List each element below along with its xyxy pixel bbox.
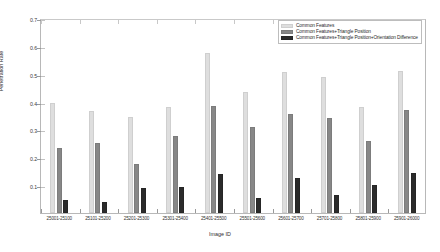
- chart-figure: 0.10.20.30.40.50.60.7 25001-2510025101-2…: [0, 0, 440, 252]
- bar-group: [243, 92, 263, 213]
- bar: [411, 173, 416, 213]
- x-tick-mark-top: [195, 20, 196, 24]
- bar-group: [205, 53, 225, 213]
- bar: [173, 136, 178, 213]
- bar-group: [398, 71, 418, 213]
- bar: [288, 114, 293, 213]
- bar: [295, 178, 300, 213]
- bar: [141, 188, 146, 213]
- bar-group: [321, 77, 341, 214]
- bar: [282, 72, 287, 213]
- bar: [359, 107, 364, 213]
- x-tick-mark-top: [157, 20, 158, 24]
- y-tick-mark-inner: [41, 159, 45, 160]
- x-tick-mark-bottom: [350, 209, 351, 213]
- bar: [372, 185, 377, 213]
- x-tick-label: 25801-25900: [355, 216, 380, 221]
- y-tick-label: 0.6: [30, 45, 37, 51]
- y-axis-title: Penetration Rate: [0, 26, 4, 116]
- y-tick-label: 0.7: [30, 17, 37, 23]
- x-tick-mark-bottom: [195, 209, 196, 213]
- bar: [366, 141, 371, 213]
- bar: [334, 195, 339, 213]
- legend-label: Common Features+Triangle Position+Orient…: [296, 35, 418, 40]
- x-tick-mark-top: [118, 20, 119, 24]
- bar: [89, 111, 94, 213]
- bar: [321, 77, 326, 214]
- y-tick-label: 0.2: [30, 156, 37, 162]
- x-tick-label: 25001-25100: [47, 216, 72, 221]
- bar: [218, 174, 223, 213]
- bar-group: [359, 107, 379, 213]
- y-tick-mark-inner: [41, 187, 45, 188]
- legend-label: Common Features: [296, 23, 334, 28]
- bar: [134, 164, 139, 213]
- x-tick-mark-bottom: [41, 209, 42, 213]
- x-tick-mark-top: [80, 20, 81, 24]
- y-tick-mark-inner: [41, 131, 45, 132]
- bar: [102, 202, 107, 213]
- legend-color-swatch: [281, 36, 293, 40]
- x-tick-mark-top: [234, 20, 235, 24]
- bar: [50, 103, 55, 213]
- bar: [327, 118, 332, 213]
- y-tick-mark-inner: [41, 48, 45, 49]
- bar: [179, 187, 184, 213]
- x-tick-mark-bottom: [388, 209, 389, 213]
- bar: [95, 143, 100, 213]
- x-tick-mark-top: [41, 20, 42, 24]
- x-tick-label: 25901-26000: [394, 216, 419, 221]
- x-tick-label: 25701-25800: [317, 216, 342, 221]
- x-tick-mark-bottom: [80, 209, 81, 213]
- bar-group: [50, 103, 70, 213]
- bar: [398, 71, 403, 213]
- x-tick-mark-bottom: [157, 209, 158, 213]
- bar: [250, 127, 255, 213]
- x-tick-label: 25101-25200: [85, 216, 110, 221]
- bar-group: [128, 117, 148, 213]
- y-tick-label: 0.4: [30, 101, 37, 107]
- bar: [256, 198, 261, 213]
- bar: [211, 106, 216, 213]
- bar: [63, 200, 68, 213]
- bar: [243, 92, 248, 213]
- chart-legend: Common FeaturesCommon Features+Triangle …: [278, 20, 422, 44]
- y-tick-mark-inner: [41, 76, 45, 77]
- legend-color-swatch: [281, 30, 293, 34]
- x-tick-label: 25601-25700: [278, 216, 303, 221]
- bar: [404, 110, 409, 213]
- legend-label: Common Features+Triangle Position: [296, 29, 371, 34]
- x-tick-label: 25401-25500: [201, 216, 226, 221]
- plot-area: 0.10.20.30.40.50.60.7: [40, 19, 426, 214]
- y-tick-label: 0.3: [30, 128, 37, 134]
- legend-color-swatch: [281, 24, 293, 28]
- x-tick-mark-top: [273, 20, 274, 24]
- x-tick-label: 25501-25600: [240, 216, 265, 221]
- x-tick-mark-bottom: [118, 209, 119, 213]
- bar-group: [166, 107, 186, 213]
- bar: [205, 53, 210, 213]
- y-tick-label: 0.5: [30, 73, 37, 79]
- x-tick-mark-bottom: [234, 209, 235, 213]
- bar-group: [282, 72, 302, 213]
- bar: [166, 107, 171, 213]
- legend-item: Common Features+Triangle Position+Orient…: [281, 35, 418, 41]
- bar: [128, 117, 133, 213]
- bar: [57, 148, 62, 213]
- x-tick-label: 25301-25400: [162, 216, 187, 221]
- x-tick-mark-bottom: [273, 209, 274, 213]
- y-tick-label: 0.1: [30, 184, 37, 190]
- x-tick-label: 25201-25300: [124, 216, 149, 221]
- x-tick-mark-bottom: [311, 209, 312, 213]
- x-axis-title: Image ID: [0, 231, 440, 237]
- y-tick-mark-inner: [41, 104, 45, 105]
- bar-group: [89, 111, 109, 213]
